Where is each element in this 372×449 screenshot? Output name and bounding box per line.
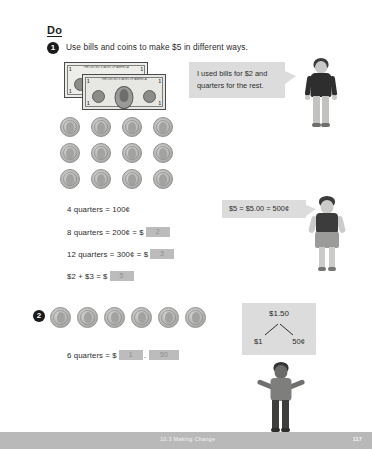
callout-total-value: $5 = $5.00 = 500¢: [222, 200, 306, 218]
section-heading: Do: [47, 24, 62, 36]
equation-text: 8 quarters = 200¢ = $: [67, 228, 144, 237]
quarter-coin-icon: [122, 117, 142, 137]
bill-seal-right: [143, 90, 156, 103]
bill-corner-value-tr: 1: [140, 67, 143, 72]
equation-row-1: 4 quarters = 100¢: [67, 205, 130, 214]
quarter-coin-icon: [104, 307, 125, 328]
page-footer: 10.3 Making Change 117: [0, 432, 372, 449]
equation-row-2: 8 quarters = 200¢ = $ 2: [67, 227, 170, 237]
equation-text: 4 quarters = 100¢: [67, 205, 130, 214]
equation-text: $2 + $3 = $: [67, 272, 108, 281]
quarter-coin-icon: [60, 143, 80, 163]
question-1-number: 1: [47, 42, 59, 54]
quarter-coin-icon: [153, 169, 173, 189]
quarter-coin-icon: [122, 169, 142, 189]
equation-row-4: $2 + $3 = $ 5: [67, 271, 134, 281]
bill-seal-left: [92, 90, 105, 103]
leg-right: [282, 400, 289, 429]
speech-bubble-bills: I used bills for $2 and quarters for the…: [189, 62, 285, 98]
number-bond-diagram: $1.50 $1 50¢: [242, 303, 316, 355]
shoe-right: [328, 267, 336, 271]
bill-country-label: THE UNITED STATES OF AMERICA: [73, 66, 139, 70]
shorts-shape: [315, 232, 339, 248]
quarter-coin-icon: [60, 117, 80, 137]
hand-right: [332, 95, 337, 100]
leg-right: [329, 247, 335, 268]
bill-corner-value-tr: 1: [158, 79, 161, 84]
answer-box-dollars[interactable]: 1: [119, 350, 143, 360]
question-2-number: 2: [33, 310, 45, 322]
equation-text: 12 quarters = 300¢ = $: [67, 250, 148, 259]
answer-box[interactable]: 2: [146, 227, 170, 237]
number-bond-total: $1.50: [242, 309, 316, 318]
torso-shape: [316, 213, 338, 234]
quarter-coin-icon: [91, 117, 111, 137]
head-shape: [321, 200, 334, 214]
bill-portrait-face: [120, 89, 129, 102]
quarter-coin-icon: [91, 143, 111, 163]
leg-left: [313, 96, 320, 124]
quarter-coin-icon: [131, 307, 152, 328]
quarter-coin-icon: [91, 169, 111, 189]
footer-page-number: 117: [353, 436, 362, 442]
quarter-coin-icon: [122, 143, 142, 163]
footer-lesson-title: 10.3 Making Change: [160, 436, 215, 442]
student-character-top: [300, 58, 342, 128]
bill-corner-value-br: 1: [158, 101, 161, 106]
bill-corner-value-tl: 1: [69, 67, 72, 72]
answer-box[interactable]: 5: [110, 271, 134, 281]
equation-text: 6 quarters = $: [67, 351, 117, 360]
quarter-coin-icon: [158, 307, 179, 328]
dollar-bills-illustration: THE UNITED STATES OF AMERICA 1 1 1 1 THE…: [64, 62, 176, 114]
shoe-left: [312, 123, 321, 127]
worksheet-page: Do 1 Use bills and coins to make $5 in d…: [0, 0, 372, 449]
question-1-prompt: Use bills and coins to make $5 in differ…: [66, 42, 248, 52]
quarter-coin-icon: [153, 143, 173, 163]
torso-shape: [311, 73, 332, 97]
number-bond-part-right: 50¢: [292, 337, 305, 346]
dollar-bill-front: THE UNITED STATES OF AMERICA 1 1 1 1: [82, 74, 166, 110]
student-character-bottom: [255, 362, 307, 434]
decimal-point: .: [144, 351, 146, 360]
equation-row-5: 6 quarters = $ 1 . 50: [67, 350, 179, 360]
quarter-coin-icon: [50, 307, 71, 328]
leg-right: [322, 96, 329, 124]
quarter-coin-icon: [153, 117, 173, 137]
shoe-left: [318, 267, 326, 271]
quarter-coins-grid: [60, 117, 173, 189]
answer-box-cents[interactable]: 50: [149, 350, 179, 360]
student-character-middle: [305, 196, 349, 274]
number-bond-part-left: $1: [254, 337, 262, 346]
answer-box[interactable]: 3: [150, 249, 174, 259]
quarter-coins-row: [50, 307, 206, 328]
bill-corner-value-bl: 1: [69, 89, 72, 94]
bill-country-label: THE UNITED STATES OF AMERICA: [91, 78, 157, 82]
bill-corner-value-bl: 1: [87, 101, 90, 106]
quarter-coin-icon: [77, 307, 98, 328]
bill-corner-value-tl: 1: [87, 79, 90, 84]
quarter-coin-icon: [185, 307, 206, 328]
torso-shape: [271, 378, 292, 401]
equation-row-3: 12 quarters = 300¢ = $ 3: [67, 249, 174, 259]
quarter-coin-icon: [60, 169, 80, 189]
shoe-right: [321, 123, 330, 127]
leg-left: [319, 247, 325, 268]
number-bond-branches: [242, 323, 316, 336]
hand-left: [305, 95, 310, 100]
head-shape: [275, 365, 288, 379]
leg-left: [272, 400, 279, 429]
